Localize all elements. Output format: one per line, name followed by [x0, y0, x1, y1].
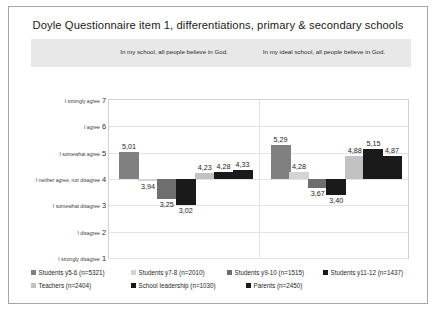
y-tick-number: 1 [102, 254, 106, 263]
legend-item[interactable]: Students y9-10 (n=1515) [227, 269, 304, 276]
legend-label: Students y5-6 (n=5321) [39, 269, 105, 276]
bar [363, 149, 383, 179]
bar-value-label: 3,94 [141, 182, 155, 191]
legend-item[interactable]: Students y7-8 (n=2010) [131, 269, 205, 276]
bar-value-label: 3,25 [160, 200, 174, 209]
legend-item[interactable]: School leadership (n=1030) [131, 282, 216, 289]
y-tick-number: 6 [102, 122, 106, 131]
chart-card: Doyle Questionnaire item 1, differentiat… [8, 6, 428, 304]
chart-title: Doyle Questionnaire item 1, differentiat… [9, 19, 427, 31]
bar-value-label: 4,28 [292, 162, 306, 171]
legend-item[interactable]: Students y5-6 (n=5321) [31, 269, 105, 276]
legend-swatch [227, 270, 232, 275]
y-tick-text: I somewhat agree [59, 150, 100, 156]
legend-swatch [246, 283, 251, 288]
legend-swatch [131, 283, 136, 288]
y-axis-tick-6: I agree6 [84, 122, 106, 131]
legend-swatch [323, 270, 328, 275]
y-tick-number: 7 [102, 96, 106, 105]
legend-swatch [31, 270, 36, 275]
y-tick-text: I agree [84, 124, 100, 130]
y-tick-number: 3 [102, 201, 106, 210]
bar-value-label: 5,15 [366, 139, 380, 148]
y-axis-tick-4: I neither agree, nor disagree4 [36, 175, 106, 184]
bar [214, 172, 234, 179]
bar [326, 179, 346, 195]
bar-value-label: 4,28 [217, 162, 231, 171]
y-tick-text: I neither agree, nor disagree [36, 177, 100, 183]
group-header-right: In my ideal school, all people believe i… [249, 48, 399, 55]
bar [138, 179, 158, 181]
y-axis-tick-1: I strongly disagree1 [58, 254, 106, 263]
bar [233, 170, 253, 179]
bar-value-label: 4,33 [236, 160, 250, 169]
plot-area: 5,013,943,253,024,234,284,335,294,283,67… [108, 99, 409, 259]
bar-value-label: 3,40 [329, 196, 343, 205]
legend-label: Students y7-8 (n=2010) [139, 269, 205, 276]
y-tick-text: I disagree [78, 229, 100, 235]
legend-label: School leadership (n=1030) [139, 282, 216, 289]
legend-swatch [131, 270, 136, 275]
y-axis-tick-3: I somewhat disagree3 [53, 201, 106, 210]
y-tick-number: 5 [102, 148, 106, 157]
bar-value-label: 3,67 [311, 189, 325, 198]
gridline [109, 232, 408, 233]
legend-item[interactable]: Students y11-12 (n=1437) [323, 269, 403, 276]
legend-item[interactable]: Teachers (n=2404) [31, 282, 91, 289]
bar [176, 179, 196, 205]
bar-value-label: 5,29 [274, 135, 288, 144]
y-tick-number: 4 [102, 175, 106, 184]
y-axis-tick-2: I disagree2 [78, 227, 107, 236]
bar [157, 179, 177, 199]
bar [382, 156, 402, 179]
y-axis-labels: I strongly agree7I agree6I somewhat agre… [9, 99, 106, 259]
legend-label: Students y11-12 (n=1437) [331, 269, 404, 276]
gridline [109, 205, 408, 206]
bar-value-label: 4,23 [198, 163, 212, 172]
legend-label: Parents (n=2450) [254, 282, 303, 289]
legend-row-1: Students y5-6 (n=5321)Students y7-8 (n=2… [31, 269, 427, 282]
legend-item[interactable]: Parents (n=2450) [246, 282, 302, 289]
bar [271, 145, 291, 179]
bar [345, 156, 365, 179]
y-axis-tick-5: I somewhat agree5 [59, 148, 106, 157]
y-tick-text: I strongly agree [65, 98, 100, 104]
group-header-left: In my school, all people believe in God. [99, 48, 249, 55]
bar [289, 172, 309, 179]
bar [308, 179, 328, 188]
bar-value-label: 3,02 [179, 206, 193, 215]
gridline [109, 258, 408, 259]
y-tick-text: I strongly disagree [58, 256, 100, 262]
bar [119, 152, 139, 179]
gridline [109, 126, 408, 127]
legend-swatch [31, 283, 36, 288]
y-tick-text: I somewhat disagree [53, 203, 100, 209]
bar-value-label: 4,87 [385, 146, 399, 155]
legend-row-2: Teachers (n=2404)School leadership (n=10… [31, 282, 427, 295]
chart-legend: Students y5-6 (n=5321)Students y7-8 (n=2… [31, 269, 427, 295]
bar-value-label: 5,01 [122, 142, 136, 151]
y-tick-number: 2 [102, 227, 106, 236]
legend-label: Teachers (n=2404) [39, 282, 92, 289]
y-axis-tick-7: I strongly agree7 [65, 96, 106, 105]
legend-label: Students y9-10 (n=1515) [235, 269, 305, 276]
bar-value-label: 4,88 [348, 146, 362, 155]
bar [195, 173, 215, 179]
